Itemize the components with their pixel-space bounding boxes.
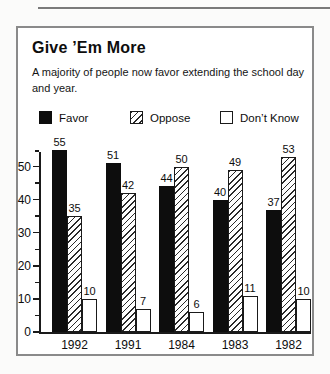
bar-don-t-know-1991 (136, 309, 151, 332)
legend-label: Don’t Know (240, 112, 299, 124)
y-axis-tick-label: 50 (7, 160, 31, 174)
plot-area: 0102030405055351019925142719914450619844… (39, 152, 311, 334)
chart-subtitle: A majority of people now favor extending… (32, 65, 306, 96)
bar-oppose-1991 (121, 193, 136, 332)
y-axis-minor-tick (35, 315, 39, 317)
y-axis-tick-label: 30 (7, 226, 31, 240)
bar-value-label: 11 (237, 282, 264, 294)
bar-oppose-1983 (228, 170, 243, 332)
bar-value-label: 50 (168, 153, 195, 165)
bar-favor-1992 (52, 150, 67, 332)
y-axis-major-tick (33, 331, 39, 333)
chart-title: Give ’Em More (32, 39, 146, 57)
bar-group-1983: 4049111983 (213, 152, 258, 332)
y-axis-tick-label: 0 (7, 325, 31, 339)
top-rule-divider (38, 7, 330, 9)
y-axis-major-tick (33, 232, 39, 234)
legend-swatch-oppose-icon (130, 111, 143, 124)
bar-value-label: 49 (222, 156, 249, 168)
bar-value-label: 55 (46, 136, 73, 148)
legend-swatch-favor-icon (39, 111, 52, 124)
bar-value-label: 35 (61, 202, 88, 214)
bar-favor-1984 (159, 186, 174, 332)
y-axis-minor-tick (35, 150, 39, 152)
bar-value-label: 10 (290, 285, 317, 297)
bar-favor-1982 (266, 210, 281, 332)
bar-oppose-1982 (281, 157, 296, 332)
y-axis-tick-label: 10 (7, 292, 31, 306)
bar-value-label: 42 (115, 179, 142, 191)
x-axis-category-label: 1982 (266, 338, 311, 352)
bar-don-t-know-1982 (296, 299, 311, 332)
legend-label: Oppose (150, 112, 190, 124)
bar-group-1984: 445061984 (159, 152, 204, 332)
bar-value-label: 7 (130, 295, 157, 307)
y-axis-minor-tick (35, 282, 39, 284)
x-axis-category-label: 1991 (106, 338, 151, 352)
y-axis-major-tick (33, 166, 39, 168)
y-axis-minor-tick (35, 215, 39, 217)
y-axis-major-tick (33, 298, 39, 300)
bar-value-label: 51 (100, 149, 127, 161)
bar-don-t-know-1992 (82, 299, 97, 332)
chart-card: Give ’Em More A majority of people now f… (16, 26, 314, 356)
bar-favor-1983 (213, 200, 228, 332)
chart-legend: FavorOpposeDon’t Know (18, 111, 312, 126)
bar-don-t-know-1984 (189, 312, 204, 332)
legend-item-favor: Favor (39, 111, 88, 124)
bar-value-label: 53 (275, 143, 302, 155)
legend-label: Favor (59, 112, 88, 124)
y-axis-minor-tick (35, 182, 39, 184)
y-axis-tick-label: 40 (7, 193, 31, 207)
x-axis-category-label: 1983 (213, 338, 258, 352)
bar-group-1992: 5535101992 (52, 152, 97, 332)
bar-group-1991: 514271991 (106, 152, 151, 332)
legend-item-don-t-know: Don’t Know (220, 111, 299, 124)
bar-value-label: 10 (76, 285, 103, 297)
legend-swatch-don-t-know-icon (220, 111, 233, 124)
bar-don-t-know-1983 (243, 296, 258, 332)
y-axis-tick-label: 20 (7, 259, 31, 273)
legend-item-oppose: Oppose (130, 111, 190, 124)
bar-group-1982: 3753101982 (266, 152, 311, 332)
bar-oppose-1992 (67, 216, 82, 332)
bar-value-label: 6 (183, 298, 210, 310)
y-axis-major-tick (33, 265, 39, 267)
y-axis-minor-tick (35, 249, 39, 251)
x-axis-category-label: 1984 (159, 338, 204, 352)
y-axis-major-tick (33, 199, 39, 201)
x-axis-category-label: 1992 (52, 338, 97, 352)
